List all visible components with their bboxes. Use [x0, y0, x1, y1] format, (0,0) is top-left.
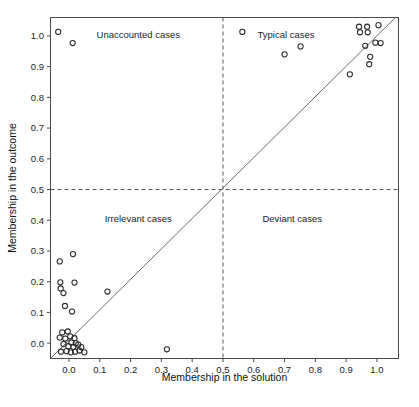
data-point — [70, 40, 75, 45]
data-point — [378, 40, 383, 45]
y-tick-label: 0.9 — [31, 61, 44, 72]
x-axis-title: Membership in the solution — [162, 371, 288, 383]
x-tick-label: 0.9 — [340, 364, 353, 375]
data-point — [164, 347, 169, 352]
data-point — [63, 336, 68, 341]
data-point — [356, 24, 361, 29]
x-tick-label: 1.0 — [370, 364, 383, 375]
data-point — [69, 309, 74, 314]
xy-plot-figure: 0.00.10.20.30.40.50.60.70.80.91.00.00.10… — [0, 0, 419, 407]
data-point — [70, 251, 75, 256]
data-point — [72, 280, 77, 285]
data-point — [373, 40, 378, 45]
y-tick-label: 0.0 — [31, 338, 44, 349]
y-axis-title: Membership in the outcome — [6, 123, 18, 253]
data-point — [365, 30, 370, 35]
data-point — [61, 290, 66, 295]
quadrant-label-top-right: Typical cases — [258, 29, 315, 40]
y-tick-label: 0.7 — [31, 122, 44, 133]
quadrant-label-top-left: Unaccounted cases — [97, 29, 181, 40]
y-tick-label: 0.5 — [31, 184, 44, 195]
data-point — [57, 259, 62, 264]
data-point — [56, 29, 61, 34]
data-point — [368, 54, 373, 59]
data-point — [357, 30, 362, 35]
y-tick-label: 0.2 — [31, 276, 44, 287]
y-tick-label: 0.4 — [31, 215, 44, 226]
y-tick-label: 0.1 — [31, 307, 44, 318]
x-tick-label: 0.0 — [62, 364, 75, 375]
data-point — [62, 303, 67, 308]
scatter-plot-canvas: 0.00.10.20.30.40.50.60.70.80.91.00.00.10… — [0, 0, 419, 407]
quadrant-label-bottom-right: Deviant cases — [262, 213, 322, 224]
data-point — [298, 44, 303, 49]
y-tick-label: 1.0 — [31, 30, 44, 41]
y-tick-label: 0.6 — [31, 153, 44, 164]
data-point — [105, 289, 110, 294]
data-point — [65, 329, 70, 334]
quadrant-label-bottom-left: Irrelevant cases — [105, 213, 172, 224]
data-point — [376, 23, 381, 28]
data-point — [60, 330, 65, 335]
data-point — [58, 349, 63, 354]
data-point — [240, 29, 245, 34]
data-point — [57, 335, 62, 340]
data-point — [58, 280, 63, 285]
x-tick-label: 0.8 — [309, 364, 322, 375]
data-point — [367, 62, 372, 67]
data-point — [82, 350, 87, 355]
y-tick-label: 0.8 — [31, 92, 44, 103]
x-tick-label: 0.1 — [93, 364, 106, 375]
data-point — [347, 72, 352, 77]
x-tick-label: 0.2 — [124, 364, 137, 375]
y-tick-label: 0.3 — [31, 245, 44, 256]
data-point — [364, 24, 369, 29]
data-point — [282, 52, 287, 57]
